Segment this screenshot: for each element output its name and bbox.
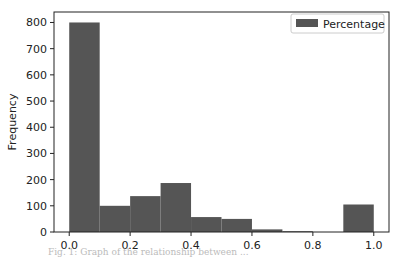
histogram-bars <box>69 22 374 232</box>
y-tick-label: 0 <box>40 226 47 239</box>
x-tick-label: 0.8 <box>304 239 322 252</box>
x-tick-label: 1.0 <box>365 239 383 252</box>
legend: Percentage <box>291 14 385 33</box>
y-tick-label: 200 <box>26 174 47 187</box>
y-tick-label: 400 <box>26 121 47 134</box>
histogram-bar <box>100 206 130 232</box>
plot-frame <box>54 12 389 232</box>
histogram-chart: 0100200300400500600700800 0.00.20.40.60.… <box>0 0 404 261</box>
histogram-bar <box>130 196 160 232</box>
legend-swatch <box>296 19 318 27</box>
y-tick-label: 100 <box>26 200 47 213</box>
y-tick-label: 500 <box>26 95 47 108</box>
histogram-bar <box>161 183 191 232</box>
histogram-bar <box>69 22 99 232</box>
figure-caption: Fig. 1: Graph of the relationship betwee… <box>48 247 249 257</box>
y-axis-label: Frequency <box>6 93 19 150</box>
y-tick-label: 800 <box>26 16 47 29</box>
y-tick-label: 600 <box>26 69 47 82</box>
y-tick-label: 300 <box>26 147 47 160</box>
y-tick-label: 700 <box>26 43 47 56</box>
histogram-bar <box>222 219 252 232</box>
histogram-bar <box>343 205 373 233</box>
y-axis: 0100200300400500600700800 <box>26 16 54 239</box>
legend-label: Percentage <box>323 18 385 31</box>
histogram-bar <box>191 217 221 232</box>
